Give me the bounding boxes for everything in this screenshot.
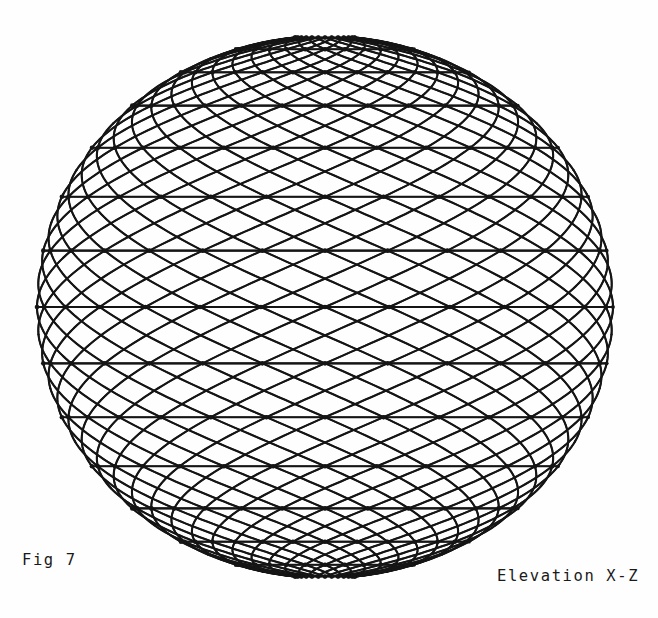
figure-page: Fig 7 Elevation X-Z	[0, 0, 658, 618]
wireframe-sphere-figure	[0, 0, 658, 618]
figure-number-label: Fig 7	[22, 553, 77, 569]
view-orientation-label: Elevation X-Z	[497, 569, 639, 585]
